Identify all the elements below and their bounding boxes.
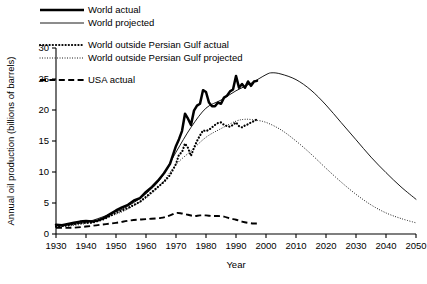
x-tick-label: 1970 [165, 240, 186, 251]
legend-label: USA actual [88, 74, 135, 85]
x-tick-label: 1980 [195, 240, 216, 251]
x-tick-label: 1940 [75, 240, 96, 251]
y-tick-label: 15 [38, 135, 49, 146]
x-tick-label: 2020 [315, 240, 336, 251]
legend-label: World outside Persian Gulf actual [88, 39, 229, 50]
y-tick-label: 0 [44, 228, 49, 239]
x-tick-label: 2050 [405, 240, 426, 251]
legend-label: World actual [88, 4, 141, 15]
x-tick-label: 1960 [135, 240, 156, 251]
y-tick-label: 25 [38, 73, 49, 84]
y-tick-label: 5 [44, 197, 49, 208]
oil-production-chart: 0510152025301930194019501960197019801990… [0, 0, 427, 284]
y-tick-label: 10 [38, 166, 49, 177]
chart-canvas: 0510152025301930194019501960197019801990… [0, 0, 427, 284]
legend-label: World outside Persian Gulf projected [88, 52, 243, 63]
x-axis-title: Year [226, 259, 245, 270]
x-tick-label: 1990 [225, 240, 246, 251]
y-tick-label: 20 [38, 104, 49, 115]
x-tick-label: 1950 [105, 240, 126, 251]
x-tick-label: 2040 [375, 240, 396, 251]
x-tick-label: 2010 [285, 240, 306, 251]
y-axis-title: Annual oil production (billions of barre… [5, 57, 16, 226]
x-tick-label: 2030 [345, 240, 366, 251]
x-tick-label: 1930 [45, 240, 66, 251]
x-tick-label: 2000 [255, 240, 276, 251]
legend-label: World projected [88, 17, 154, 28]
